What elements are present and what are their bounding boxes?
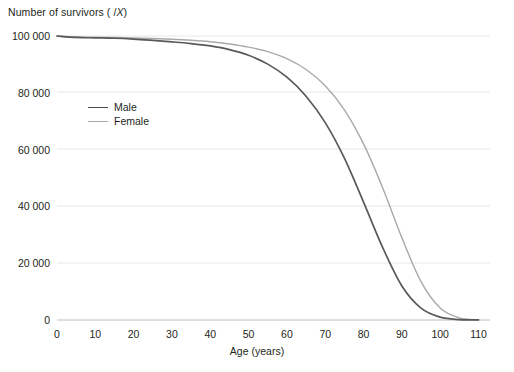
x-axis-title: Age (years) bbox=[0, 345, 514, 357]
x-tick-label: 30 bbox=[166, 328, 178, 340]
legend-item-female: Female bbox=[88, 114, 149, 128]
legend-item-male: Male bbox=[88, 100, 149, 114]
legend: Male Female bbox=[88, 100, 149, 128]
legend-swatch-female-icon bbox=[88, 121, 108, 122]
y-tick-label: 20 000 bbox=[0, 257, 50, 269]
plot-area bbox=[0, 0, 514, 372]
legend-label-male: Male bbox=[114, 100, 137, 114]
y-tick-label: 100 000 bbox=[0, 30, 50, 42]
y-tick-label: 80 000 bbox=[0, 87, 50, 99]
x-tick-label: 70 bbox=[319, 328, 331, 340]
x-tick-label: 110 bbox=[470, 328, 487, 340]
x-tick-label: 60 bbox=[281, 328, 293, 340]
x-tick-label: 90 bbox=[396, 328, 408, 340]
series-line-male bbox=[57, 36, 479, 320]
survivorship-chart: Number of survivors ( /X) Male Female 02… bbox=[0, 0, 514, 372]
y-tick-label: 60 000 bbox=[0, 144, 50, 156]
x-tick-label: 20 bbox=[128, 328, 140, 340]
x-tick-label: 100 bbox=[431, 328, 449, 340]
y-tick-label: 0 bbox=[0, 314, 50, 326]
x-tick-label: 80 bbox=[358, 328, 370, 340]
x-tick-label: 50 bbox=[243, 328, 255, 340]
legend-swatch-male-icon bbox=[88, 107, 108, 108]
gridlines bbox=[57, 36, 490, 263]
series-line-female bbox=[57, 36, 479, 320]
x-tick-label: 40 bbox=[204, 328, 216, 340]
legend-label-female: Female bbox=[114, 114, 149, 128]
x-tick-label: 0 bbox=[54, 328, 60, 340]
x-tick-label: 10 bbox=[89, 328, 101, 340]
y-tick-label: 40 000 bbox=[0, 200, 50, 212]
